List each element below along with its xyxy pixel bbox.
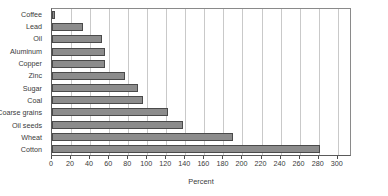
category-label: Coffee	[0, 8, 46, 20]
x-axis-title: Percent	[51, 178, 351, 185]
category-label: Aluminum	[0, 45, 46, 57]
category-label: Copper	[0, 57, 46, 69]
x-tick-label: 0	[49, 160, 53, 167]
bar	[52, 72, 125, 80]
x-tick-label: 120	[159, 160, 171, 167]
category-label: Wheat	[0, 131, 46, 143]
bar-row	[52, 82, 350, 94]
x-tick-label: 280	[312, 160, 324, 167]
x-tick-label: 220	[255, 160, 267, 167]
x-tick-label: 160	[197, 160, 209, 167]
bar	[52, 48, 105, 56]
x-tick-label: 40	[85, 160, 93, 167]
bar	[52, 60, 105, 68]
bar	[52, 121, 183, 129]
bar-row	[52, 21, 350, 33]
x-tick-label: 80	[123, 160, 131, 167]
bar	[52, 108, 168, 116]
bar-row	[52, 143, 350, 155]
bar	[52, 96, 143, 104]
bar	[52, 133, 233, 141]
x-tick-label: 300	[331, 160, 343, 167]
category-label: Oil seeds	[0, 119, 46, 131]
bar-row	[52, 58, 350, 70]
x-tick-label: 100	[140, 160, 152, 167]
x-axis-tick-labels: 0204060801001201401601802002202402602803…	[51, 160, 351, 172]
bar-row	[52, 70, 350, 82]
x-tick-label: 180	[216, 160, 228, 167]
plot-area	[51, 8, 351, 156]
category-label: Cotton	[0, 144, 46, 156]
bar	[52, 84, 138, 92]
category-label: Sugar	[0, 82, 46, 94]
category-label: Zinc	[0, 70, 46, 82]
bar	[52, 35, 102, 43]
bar-row	[52, 131, 350, 143]
bar-row	[52, 46, 350, 58]
x-tick-label: 240	[274, 160, 286, 167]
x-tick-label: 200	[235, 160, 247, 167]
bar	[52, 11, 55, 19]
category-axis-labels: CoffeeLeadOilAluminumCopperZincSugarCoal…	[0, 8, 46, 156]
bar	[52, 145, 320, 153]
category-label: Coarse grains	[0, 107, 46, 119]
bar-row	[52, 33, 350, 45]
x-tick-label: 20	[66, 160, 74, 167]
horizontal-bar-chart: CoffeeLeadOilAluminumCopperZincSugarCoal…	[0, 0, 388, 196]
category-label: Lead	[0, 20, 46, 32]
x-tick-label: 60	[104, 160, 112, 167]
bar-series	[52, 9, 350, 155]
category-label: Coal	[0, 94, 46, 106]
x-tick-label: 140	[178, 160, 190, 167]
category-label: Oil	[0, 33, 46, 45]
bar-row	[52, 94, 350, 106]
bar-row	[52, 119, 350, 131]
bar	[52, 23, 83, 31]
bar-row	[52, 9, 350, 21]
x-tick-label: 260	[293, 160, 305, 167]
bar-row	[52, 106, 350, 118]
